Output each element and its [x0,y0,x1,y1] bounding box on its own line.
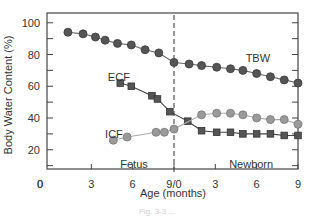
data-point-circle [127,41,135,49]
body-water-chart: 204060801000 0369/0369 TBWECFICFFetusNew… [0,0,314,218]
data-point-circle [170,58,178,66]
x-tick-label: 3 [88,178,94,190]
data-point-circle [266,116,274,124]
data-point-circle [213,109,221,117]
data-point-circle [101,36,109,44]
y-axis-title: Body Water Content (%) [2,36,14,155]
series-line [120,83,298,135]
data-point-circle [226,109,234,117]
data-point-circle [155,49,163,57]
data-point-circle [198,111,206,119]
region-label-newborn: Newborn [229,158,273,170]
series-label-ecf: ECF [108,71,130,83]
data-point-circle [79,30,87,38]
x-axis-title: Age (months) [140,187,206,199]
series-layer [64,28,302,144]
labels-layer: TBWECFICFFetusNewborn [105,52,273,170]
x-tick-label: 9 [295,178,301,190]
data-point-square [128,83,135,90]
y-tick-label: 40 [28,112,40,124]
data-point-circle [91,33,99,41]
data-point-circle [141,46,149,54]
y-tick-label: 80 [28,49,40,61]
series-label-tbw: TBW [246,52,271,64]
data-point-circle [160,128,168,136]
data-point-square [253,131,260,138]
data-point-square [281,132,288,139]
data-point-circle [198,62,206,70]
x-tick-label: 0 [37,178,43,190]
data-point-square [213,129,220,136]
data-point-circle [152,128,160,136]
data-point-circle [280,116,288,124]
figure-caption: Fig. 3-3 ... [139,207,175,216]
data-point-circle [266,73,274,81]
data-point-circle [280,76,288,84]
y-tick-label: 60 [28,80,40,92]
data-point-square [154,96,161,103]
data-point-square [198,127,205,134]
y-tick-label: 20 [28,144,40,156]
region-label-fetus: Fetus [120,158,148,170]
data-point-circle [185,60,193,68]
data-point-circle [253,70,261,78]
data-point-circle [253,114,261,122]
data-point-circle [239,66,247,74]
y-tick-label: 100 [22,17,40,29]
data-point-circle [64,28,72,36]
data-point-circle [170,125,178,133]
x-tick-label: 6 [130,178,136,190]
data-point-square [240,131,247,138]
data-point-square [267,131,274,138]
data-point-circle [123,133,131,141]
data-point-circle [213,63,221,71]
series-ecf [117,80,301,139]
series-icf [109,109,302,144]
data-point-circle [294,120,302,128]
data-point-square [167,108,174,115]
x-tick-label: 6 [254,178,260,190]
data-point-circle [226,65,234,73]
data-point-square [227,129,234,136]
series-label-icf: ICF [105,128,123,140]
data-point-square [295,132,302,139]
data-point-circle [114,39,122,47]
data-point-circle [239,111,247,119]
data-point-circle [294,79,302,87]
x-tick-label: 3 [212,178,218,190]
